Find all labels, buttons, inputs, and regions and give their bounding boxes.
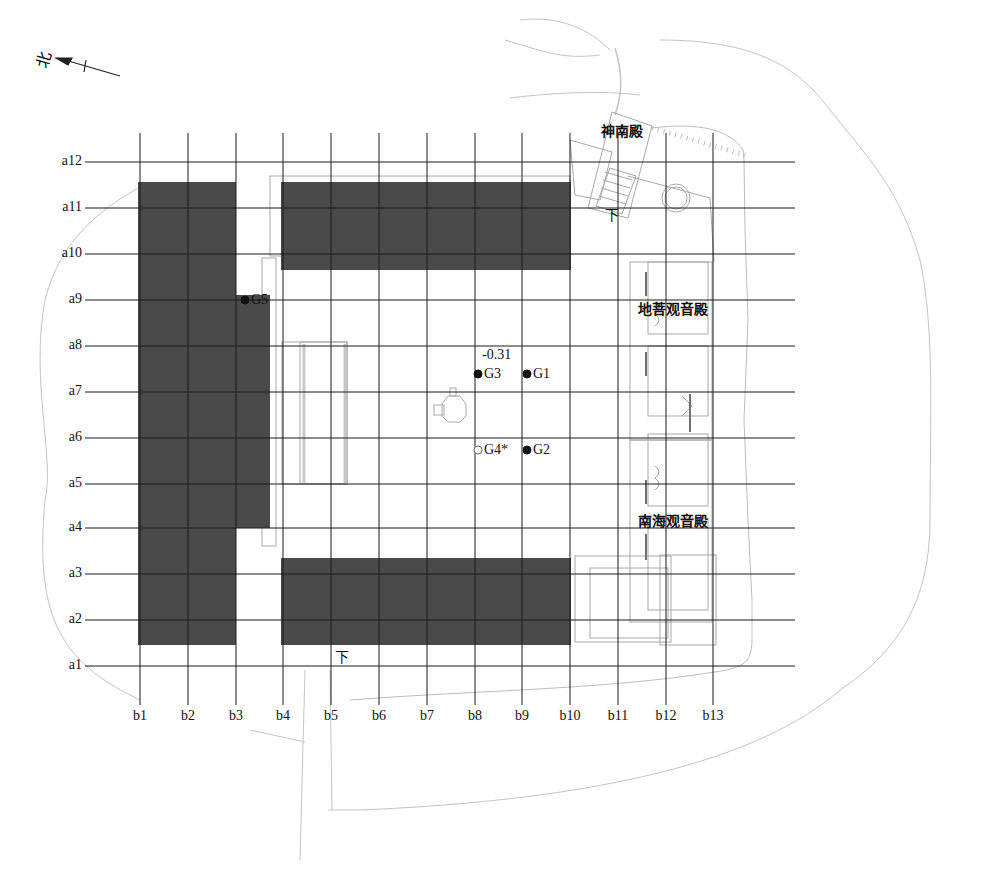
grid-column-label-b7: b7 (407, 709, 447, 723)
grid-column-label-b12: b12 (646, 709, 686, 723)
grid-row-label-a5: a5 (42, 476, 82, 490)
grid-column-label-b10: b10 (550, 709, 590, 723)
grid-row-label-a12: a12 (42, 154, 82, 168)
grid-row-label-a7: a7 (42, 384, 82, 398)
point-label-g3: G3 (484, 367, 501, 381)
grid-row-label-a4: a4 (42, 520, 82, 534)
point-label-g1: G1 (533, 367, 550, 381)
grid-row-label-a10: a10 (42, 246, 82, 260)
grid-column-label-b13: b13 (693, 709, 733, 723)
grid-row-label-a8: a8 (42, 338, 82, 352)
grid-column-label-b6: b6 (359, 709, 399, 723)
grid-row-label-a1: a1 (42, 658, 82, 672)
hall-label-nanhai-guanyin: 南海观音殿 (638, 514, 708, 528)
survey-point-marker-g1 (523, 370, 531, 378)
point-label-g4: G4* (484, 443, 508, 457)
survey-point-marker-g5 (241, 296, 249, 304)
survey-point-marker-g4 (474, 446, 482, 454)
grid-row-label-a6: a6 (42, 430, 82, 444)
grid-row-label-a9: a9 (42, 292, 82, 306)
site-plan-drawing (0, 0, 985, 876)
west-block-extension (236, 295, 270, 528)
grid-column-label-b2: b2 (168, 709, 208, 723)
stair-down-mark-south: 下 (335, 650, 349, 664)
point-label-g5: G5 (251, 293, 268, 307)
grid-column-label-b4: b4 (263, 709, 303, 723)
south-block (281, 558, 571, 645)
north-block (281, 182, 571, 270)
grid-column-label-b5: b5 (311, 709, 351, 723)
hall-label-dipu-guanyin: 地菩观音殿 (638, 302, 708, 316)
stair-down-mark-north: 下 (605, 208, 619, 222)
survey-point-marker-g2 (523, 446, 531, 454)
grid-column-label-b11: b11 (598, 709, 638, 723)
grid-column-label-b9: b9 (502, 709, 542, 723)
grid-column-label-b3: b3 (216, 709, 256, 723)
north-arrow-icon (56, 58, 120, 76)
grid-column-label-b8: b8 (455, 709, 495, 723)
point-label-g2: G2 (533, 443, 550, 457)
grid-row-label-a3: a3 (42, 566, 82, 580)
grid-column-label-b1: b1 (120, 709, 160, 723)
west-block (138, 182, 236, 645)
survey-point-marker-g3 (474, 370, 482, 378)
hall-label-shennan: 神南殿 (601, 124, 643, 138)
grid-row-label-a2: a2 (42, 612, 82, 626)
shaded-blocks (138, 182, 571, 645)
grid-row-label-a11: a11 (42, 200, 82, 214)
elevation-label: -0.31 (482, 348, 511, 362)
